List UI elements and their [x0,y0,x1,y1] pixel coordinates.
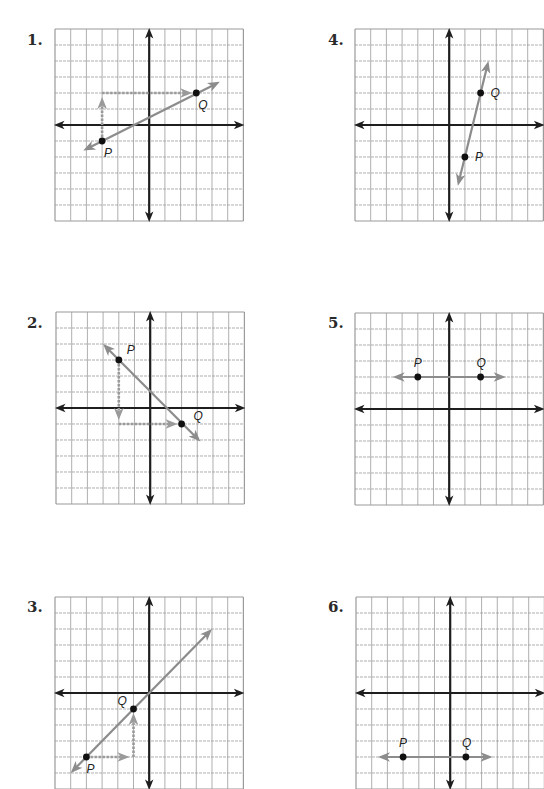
point-q [462,754,469,761]
point-q [130,706,137,713]
point-q-label: Q [477,356,486,370]
point-p [99,138,106,145]
point-p-label: P [475,150,483,164]
point-q-label: Q [117,694,126,708]
coordinate-grid: PQ [355,29,543,221]
point-p-label: P [86,762,94,776]
line-start-arrow-icon [453,173,465,187]
line-pq [76,635,206,768]
line-end-arrow-icon [481,60,493,74]
problem-number: 5. [328,314,344,332]
point-q [477,374,484,381]
point-q [178,421,185,428]
problem-number: 4. [328,31,344,49]
coordinate-grid: PQ [355,313,543,505]
coordinate-grid: PQ [56,312,244,504]
problem-number: 6. [328,598,344,616]
axes [54,28,244,222]
point-q-label: Q [194,409,203,423]
point-q-label: Q [491,86,500,100]
point-p [414,374,421,381]
point-p-label: P [399,736,407,750]
coordinate-grid: PQ [356,597,544,789]
point-p [400,754,407,761]
point-p [83,754,90,761]
axes [355,596,544,789]
point-p-label: P [104,146,112,160]
line-end-arrow-icon [207,78,222,92]
point-p-label: P [414,356,422,370]
axes [55,311,245,505]
point-q [477,90,484,97]
point-q [193,90,200,97]
point-p [115,357,122,364]
problem-number: 2. [27,314,43,332]
coordinate-grid: PQ [55,29,243,221]
point-q-label: Q [198,98,207,112]
problem-number: 3. [27,598,43,616]
problem-number: 1. [27,31,43,49]
coordinate-grid: PQ [55,597,243,789]
line-start-arrow-icon [81,141,96,155]
axes [354,28,544,222]
point-p [461,154,468,161]
axes [354,312,544,506]
point-p-label: P [127,343,135,357]
point-q-label: Q [462,736,471,750]
